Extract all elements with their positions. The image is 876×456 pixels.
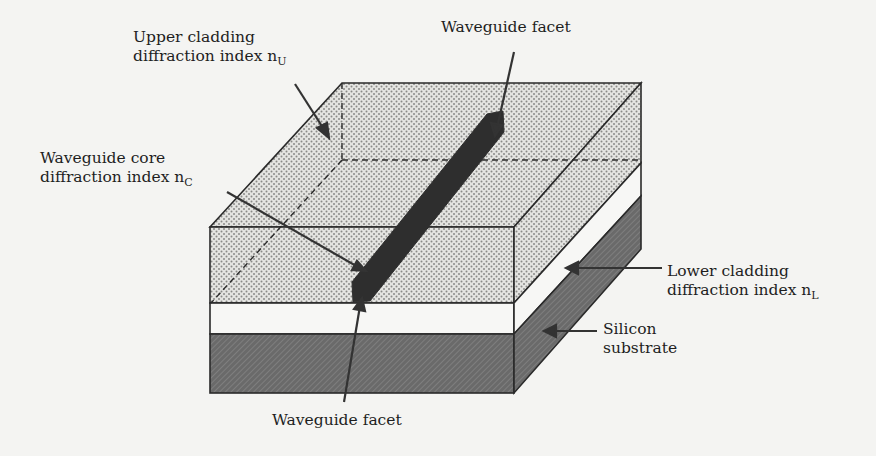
label-subscript: L	[811, 289, 818, 302]
waveguide-structure	[0, 0, 876, 456]
label-lower-cladding-line1: Lower cladding	[667, 262, 819, 281]
label-upper-cladding-line2: diffraction index nU	[133, 47, 287, 71]
label-subscript: C	[184, 176, 192, 189]
label-facet-bottom: Waveguide facet	[272, 411, 402, 430]
label-facet-top-text: Waveguide facet	[441, 18, 571, 37]
label-text: diffraction index n	[133, 47, 277, 65]
label-core: Waveguide core diffraction index nC	[40, 149, 193, 192]
label-upper-cladding: Upper cladding diffraction index nU	[133, 28, 287, 71]
label-lower-cladding-line2: diffraction index nL	[667, 281, 819, 305]
label-core-line1: Waveguide core	[40, 149, 193, 168]
waveguide-diagram: Upper cladding diffraction index nU Wave…	[0, 0, 876, 456]
label-substrate: Silicon substrate	[603, 320, 677, 358]
label-substrate-line2: substrate	[603, 339, 677, 358]
label-substrate-line1: Silicon	[603, 320, 677, 339]
label-facet-bottom-text: Waveguide facet	[272, 411, 402, 430]
substrate-front-face	[210, 334, 514, 393]
label-upper-cladding-line1: Upper cladding	[133, 28, 287, 47]
label-text: diffraction index n	[40, 168, 184, 186]
label-core-line2: diffraction index nC	[40, 168, 193, 192]
label-facet-top: Waveguide facet	[441, 18, 571, 37]
label-text: diffraction index n	[667, 281, 811, 299]
label-lower-cladding: Lower cladding diffraction index nL	[667, 262, 819, 305]
label-subscript: U	[277, 55, 286, 68]
